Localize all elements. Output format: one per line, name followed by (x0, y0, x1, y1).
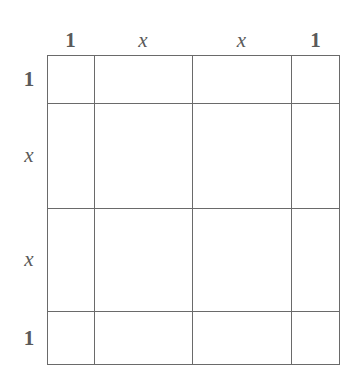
grid-cell (291, 208, 340, 311)
grid-cell (47, 208, 94, 311)
row-label-1: 1 (16, 55, 42, 103)
column-label-2: x (94, 28, 192, 52)
grid-cell (192, 55, 291, 103)
grid-cell (47, 55, 94, 103)
column-label-4: 1 (291, 28, 340, 52)
grid-cell (291, 55, 340, 103)
grid-cell (47, 103, 94, 208)
column-label-1: 1 (47, 28, 94, 52)
grid-cell (94, 208, 192, 311)
area-model-figure: 1 x x 1 1 x x 1 (0, 0, 360, 385)
grid-cell (192, 311, 291, 365)
grid-cell (291, 311, 340, 365)
grid-cell (47, 311, 94, 365)
row-label-2: x (16, 103, 42, 208)
row-label-4: 1 (16, 311, 42, 365)
grid-cell (94, 55, 192, 103)
column-label-3: x (192, 28, 291, 52)
grid-cell (192, 103, 291, 208)
grid-cell (94, 103, 192, 208)
row-label-3: x (16, 208, 42, 311)
grid-cell (291, 103, 340, 208)
grid-cell (94, 311, 192, 365)
grid-cell (192, 208, 291, 311)
